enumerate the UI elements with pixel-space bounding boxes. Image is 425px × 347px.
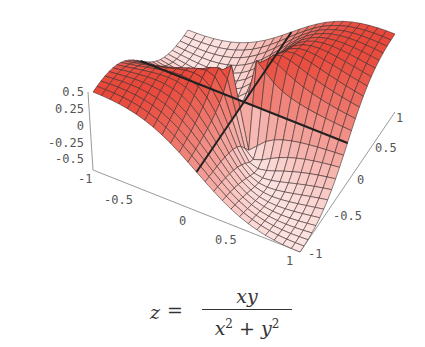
z-tick: 0	[77, 119, 84, 133]
z-axis-line	[88, 92, 93, 170]
y-tick: -1	[308, 247, 322, 261]
y-tick: 0.5	[375, 141, 397, 155]
function-formula: z = xy x2 + y2	[150, 285, 300, 340]
z-tick: -0.25	[48, 136, 84, 150]
fraction-bar	[202, 309, 292, 310]
formula-denominator: x2 + y2	[202, 313, 292, 339]
formula-fraction: xy x2 + y2	[202, 285, 292, 339]
formula-numerator: xy	[202, 285, 292, 307]
x-tick: 1	[286, 254, 293, 268]
y-tick: 0	[357, 173, 364, 187]
y-tick: -0.5	[333, 209, 362, 223]
formula-lhs: z	[150, 301, 160, 323]
z-axis-ticks: 0.5 0.25 0 -0.25 -0.5	[48, 85, 84, 166]
x-tick: 0	[179, 214, 186, 228]
x-tick: -0.5	[104, 193, 133, 207]
x-tick: -1	[78, 172, 92, 186]
z-tick: -0.5	[55, 152, 84, 166]
formula-equals: =	[167, 299, 183, 321]
y-tick: 1	[396, 111, 403, 125]
x-tick: 0.5	[215, 233, 237, 247]
z-tick: 0.5	[62, 85, 84, 99]
z-tick: 0.25	[55, 102, 84, 116]
